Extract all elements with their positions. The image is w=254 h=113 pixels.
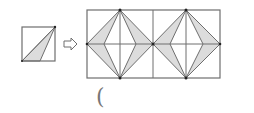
puzzle-figure xyxy=(0,0,254,113)
source-square xyxy=(21,26,56,62)
answer-parenthesis: ( xyxy=(96,86,105,108)
pattern-grid xyxy=(86,9,222,80)
transform-arrow-icon xyxy=(64,38,77,50)
